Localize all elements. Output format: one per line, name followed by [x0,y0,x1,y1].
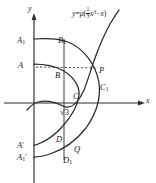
point-label-A1-prime: A1' [17,153,27,162]
outer-arc-curve [34,39,99,157]
point-label-A: A [18,61,23,70]
x-axis-arrowhead [138,101,145,106]
subscript: 1 [22,39,25,45]
point-label-C1: C1 [100,83,109,92]
x-axis-label: x [146,97,150,105]
point-label-B: B [55,71,60,80]
subscript: 1 [69,159,72,165]
chord-A-P-dashed [36,67,98,68]
point-label-D1: D1 [63,156,72,165]
figure-container: y=μ(13x3−x) y x A1 B1 A B P C1 C √3 D Q … [0,0,156,183]
sqrt3-tick-label: √3 [60,108,69,117]
point-label-P: P [99,66,104,75]
point-label-A-prime: A' [17,141,24,150]
equation-close-paren: ) [104,9,107,18]
prime-mark: ' [25,153,26,162]
point-label-C: C [73,92,79,101]
y-axis-arrowhead [32,13,37,20]
point-label-B1: B1 [58,36,66,45]
prime-mark: ' [22,141,23,150]
curve-equation-label: y=μ(13x3−x) [72,7,106,19]
subscript: 1 [63,39,66,45]
y-axis-label: y [28,5,32,13]
point-label-Q: Q [74,145,80,154]
point-label-A1: A1 [17,36,25,45]
point-label-D: D [56,135,62,144]
subscript: 1 [106,86,109,92]
